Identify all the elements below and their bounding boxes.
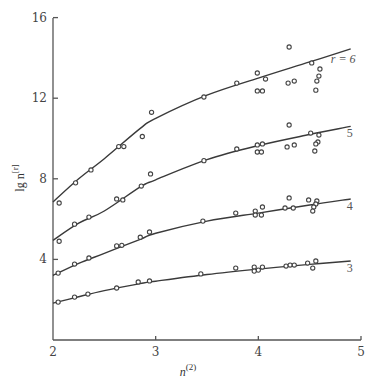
data-point — [56, 300, 60, 304]
data-point — [202, 95, 206, 99]
data-point — [287, 123, 291, 127]
x-tick-label: 5 — [357, 345, 365, 359]
data-point — [87, 256, 91, 260]
series-label-3: 3 — [347, 261, 353, 275]
data-point — [286, 81, 290, 85]
data-point — [73, 181, 77, 185]
data-point — [260, 205, 264, 209]
data-point — [121, 198, 125, 202]
data-point — [253, 213, 257, 217]
data-point — [291, 206, 295, 210]
data-point — [86, 292, 90, 296]
data-point — [285, 145, 289, 149]
y-axis-label: lg n[r] — [10, 164, 27, 191]
fit-curve-6 — [53, 49, 351, 202]
y-tick-label: 8 — [39, 172, 47, 186]
data-point — [120, 243, 124, 247]
data-point — [311, 266, 315, 270]
data-point — [138, 235, 142, 239]
data-point — [122, 144, 126, 148]
data-point — [256, 268, 260, 272]
data-point — [199, 272, 203, 276]
data-point — [148, 172, 152, 176]
data-point — [283, 206, 287, 210]
data-point — [311, 209, 315, 213]
data-point — [57, 201, 61, 205]
data-point — [263, 77, 267, 81]
data-point — [136, 280, 140, 284]
data-point — [89, 168, 93, 172]
x-axis-label-sup: (2) — [186, 362, 197, 372]
data-point — [314, 88, 318, 92]
data-point — [259, 150, 263, 154]
data-point — [287, 45, 291, 49]
data-point — [318, 67, 322, 71]
y-axis-label-base: lg n — [13, 173, 27, 191]
y-axis-label-sup: [r] — [10, 164, 20, 173]
data-point — [313, 149, 317, 153]
data-point — [72, 262, 76, 266]
data-point — [201, 219, 205, 223]
data-point — [147, 279, 151, 283]
series-label-5: 5 — [347, 126, 353, 140]
data-point — [115, 244, 119, 248]
data-point — [315, 79, 319, 83]
x-tick-label: 4 — [255, 345, 263, 359]
data-point — [139, 184, 143, 188]
series-label-6: r = 6 — [331, 52, 356, 66]
data-point — [149, 110, 153, 114]
data-point — [115, 286, 119, 290]
series-labels: r = 6543 — [331, 52, 356, 275]
data-point — [255, 143, 259, 147]
data-point — [284, 264, 288, 268]
data-point — [72, 222, 76, 226]
data-point — [287, 196, 291, 200]
data-point — [314, 142, 318, 146]
data-point — [260, 265, 264, 269]
data-point — [255, 71, 259, 75]
data-point — [72, 295, 76, 299]
data-point — [307, 198, 311, 202]
data-point — [235, 81, 239, 85]
data-point — [259, 213, 263, 217]
y-tick-label: 4 — [39, 252, 47, 266]
data-point — [292, 263, 296, 267]
data-point — [255, 89, 259, 93]
data-point — [260, 89, 264, 93]
y-tick-label: 16 — [32, 11, 47, 25]
data-point — [317, 133, 321, 137]
data-point — [310, 61, 314, 65]
x-tick-label: 3 — [152, 345, 160, 359]
data-point — [317, 74, 321, 78]
data-point — [234, 211, 238, 215]
data-point — [292, 79, 296, 83]
data-point — [260, 142, 264, 146]
data-point — [56, 271, 60, 275]
data-point — [292, 143, 296, 147]
chart: 481216 2345 r = 6543 n(2) lg n[r] — [0, 0, 379, 389]
data-point — [57, 239, 61, 243]
data-point — [115, 197, 119, 201]
data-point — [140, 134, 144, 138]
x-axis-label: n(2) — [180, 362, 197, 379]
data-point — [234, 266, 238, 270]
data-points — [56, 45, 322, 304]
data-point — [235, 147, 239, 151]
y-tick-label: 12 — [32, 91, 47, 105]
data-point — [87, 215, 91, 219]
series-label-4: 4 — [347, 199, 353, 213]
data-point — [202, 159, 206, 163]
x-tick-label: 2 — [49, 345, 57, 359]
data-point — [252, 269, 256, 273]
plot-area: 481216 2345 r = 6543 — [32, 11, 365, 359]
data-point — [314, 259, 318, 263]
data-point — [117, 144, 121, 148]
y-ticks: 481216 — [32, 11, 58, 267]
data-point — [309, 131, 313, 135]
data-point — [147, 230, 151, 234]
fit-curve-3 — [53, 261, 351, 303]
data-point — [306, 261, 310, 265]
